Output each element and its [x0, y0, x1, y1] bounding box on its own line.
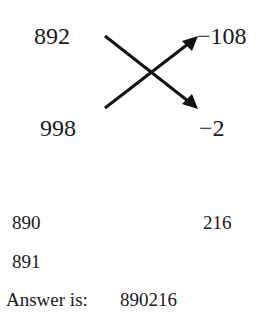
answer-value: 890216 — [120, 290, 177, 310]
cross-arrows-diagram — [0, 0, 261, 160]
work-row2-left: 891 — [12, 252, 41, 272]
answer-label: Answer is: — [6, 290, 88, 310]
work-row1-right: 216 — [203, 213, 232, 233]
work-row1-left: 890 — [12, 213, 41, 233]
